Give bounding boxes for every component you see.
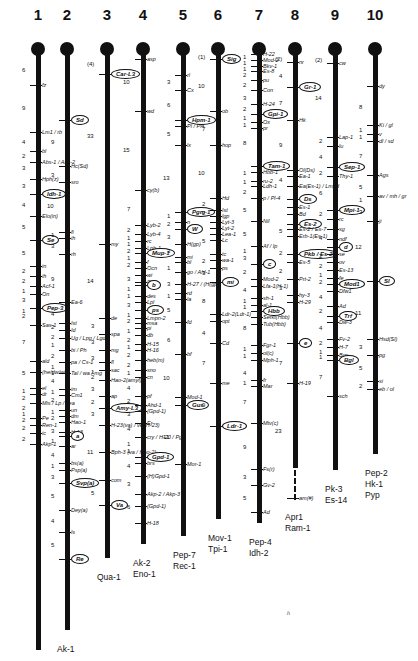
map-distance: 1 xyxy=(243,248,246,254)
map-distance: 3 xyxy=(127,276,130,282)
map-distance: 1 xyxy=(127,441,130,447)
locus-label: cw xyxy=(339,60,346,66)
circled-locus-label: Idh-1 xyxy=(42,189,66,199)
locus-tick xyxy=(287,229,299,230)
map-distance: 1 xyxy=(22,388,25,394)
map-distance: 3 xyxy=(91,411,94,417)
locus-tick xyxy=(135,302,147,303)
locus-tick xyxy=(135,285,147,286)
map-distance: 5 xyxy=(243,495,246,501)
locus-label: la xyxy=(187,296,191,302)
map-distance: 4 xyxy=(202,330,205,336)
locus-tick xyxy=(30,132,42,133)
map-distance: 1 xyxy=(51,232,54,238)
locus-label: v xyxy=(379,131,382,137)
locus-tick xyxy=(135,350,147,351)
chromosome-bar xyxy=(105,49,110,558)
locus-tick xyxy=(287,224,299,225)
map-distance: 1 xyxy=(243,346,246,352)
locus-tick xyxy=(59,389,71,390)
map-distance: 2 xyxy=(127,318,130,324)
circled-locus-label: b xyxy=(147,280,161,290)
locus-label: ov xyxy=(339,259,345,265)
locus-tick xyxy=(367,381,379,382)
map-distance: 2 xyxy=(243,82,246,88)
map-distance: 1 xyxy=(22,288,25,294)
map-distance: 4 xyxy=(319,235,322,241)
map-distance: 4 xyxy=(319,154,322,160)
locus-tick xyxy=(175,262,187,263)
map-distance: 2 xyxy=(319,138,322,144)
locus-tick xyxy=(210,383,222,384)
locus-label: eb / ol xyxy=(379,386,394,392)
locus-tick xyxy=(175,244,187,245)
locus-tick xyxy=(210,234,222,235)
locus-tick xyxy=(30,179,42,180)
map-distance: 2 xyxy=(243,269,246,275)
locus-label: nr xyxy=(299,59,304,65)
locus-tick xyxy=(287,262,299,263)
map-distance: 2 xyxy=(359,383,362,389)
locus-tick xyxy=(59,338,71,339)
map-distance: 1 xyxy=(51,342,54,348)
map-distance: 2 xyxy=(22,436,25,442)
locus-tick xyxy=(59,483,71,484)
locus-tick xyxy=(99,74,111,75)
locus-label: com xyxy=(111,477,121,483)
locus-tick xyxy=(99,480,111,481)
locus-tick xyxy=(135,405,147,406)
locus-tick xyxy=(327,270,339,271)
map-distance: 4 xyxy=(279,177,282,183)
chromosome-footer-label: Pyp xyxy=(365,490,380,500)
locus-tick xyxy=(327,254,339,255)
locus-label: Hc(Sd) xyxy=(71,163,88,169)
locus-tick xyxy=(327,347,339,348)
locus-tick xyxy=(327,167,339,168)
locus-tick xyxy=(327,284,339,285)
locus-tick xyxy=(327,262,339,263)
locus-tick xyxy=(175,464,187,465)
chromosome-footer-label: Hk-1 xyxy=(365,479,383,489)
locus-label: Mar xyxy=(263,383,272,389)
map-distance: 1 xyxy=(51,438,54,444)
locus-tick xyxy=(251,128,263,129)
locus-label: av / mh / gr xyxy=(379,193,407,199)
locus-tick xyxy=(251,54,263,55)
map-distance: 2 xyxy=(22,268,25,274)
map-distance: 5 xyxy=(22,370,25,376)
stray-mark: /ı xyxy=(287,610,290,616)
map-distance: 2 xyxy=(243,106,246,112)
locus-tick xyxy=(135,396,147,397)
map-distance: 12 xyxy=(355,244,362,250)
locus-tick xyxy=(30,240,42,241)
locus-label: si xyxy=(379,378,383,384)
locus-tick xyxy=(59,463,71,464)
locus-tick xyxy=(251,469,263,470)
map-distance: 4 xyxy=(127,463,130,469)
locus-label: brs xyxy=(147,460,155,466)
locus-tick xyxy=(367,125,379,126)
locus-label: Dey(a) xyxy=(71,507,88,513)
locus-label: lx xyxy=(187,142,191,148)
locus-tick xyxy=(135,262,147,263)
map-distance: 1 xyxy=(127,293,130,299)
locus-tick xyxy=(59,422,71,423)
map-distance: 3 xyxy=(127,411,130,417)
map-distance: 1 xyxy=(51,389,54,395)
locus-label: sro xyxy=(71,179,79,185)
map-distance: 4 xyxy=(22,139,25,145)
locus-tick xyxy=(59,416,71,417)
locus-label: Bd xyxy=(299,211,306,217)
map-distance: (2) xyxy=(315,57,322,63)
locus-tick xyxy=(135,225,147,226)
locus-tick xyxy=(251,122,263,123)
map-distance: 2 xyxy=(91,374,94,380)
locus-label: Er xyxy=(147,420,153,426)
map-distance: 9 xyxy=(279,142,282,148)
map-distance: 5 xyxy=(243,231,246,237)
locus-label: bi / Ph xyxy=(71,347,87,353)
locus-tick xyxy=(287,254,299,255)
map-distance: 3 xyxy=(243,474,246,480)
locus-tick xyxy=(30,403,42,404)
locus-tick xyxy=(135,268,147,269)
